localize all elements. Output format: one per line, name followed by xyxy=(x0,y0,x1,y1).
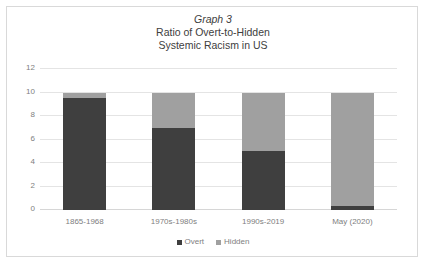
legend-label: Hidden xyxy=(224,238,249,246)
x-axis-tick-label: May (2020) xyxy=(332,217,372,226)
y-axis-tick-label: 6 xyxy=(31,135,35,143)
x-axis-tick-label: 1865-1968 xyxy=(65,217,103,226)
y-axis-tick-label: 4 xyxy=(31,158,35,166)
bar-segment-hidden[interactable] xyxy=(331,93,374,206)
bar-group[interactable]: 1990s-2019 xyxy=(242,69,285,210)
y-axis-tick-label: 12 xyxy=(26,64,35,72)
chart-title-line-2: Ratio of Overt-to-Hidden xyxy=(7,26,418,39)
chart-title-line-1: Graph 3 xyxy=(7,13,418,26)
bar-segment-hidden[interactable] xyxy=(242,93,285,152)
chart-title: Graph 3 Ratio of Overt-to-Hidden Systemi… xyxy=(7,13,418,52)
x-axis-tick-label: 1990s-2019 xyxy=(242,217,284,226)
chart-legend: OvertHidden xyxy=(7,238,418,246)
bar-segment-hidden[interactable] xyxy=(63,93,106,99)
chart-title-line-3: Systemic Racism in US xyxy=(7,39,418,52)
legend-swatch-icon xyxy=(216,240,221,245)
y-axis-tick-label: 8 xyxy=(31,111,35,119)
bar-group[interactable]: 1970s-1980s xyxy=(152,69,195,210)
chart-container: Graph 3 Ratio of Overt-to-Hidden Systemi… xyxy=(6,6,418,257)
legend-swatch-icon xyxy=(177,240,182,245)
bar-group[interactable]: 1865-1968 xyxy=(63,69,106,210)
bar-segment-overt[interactable] xyxy=(242,151,285,210)
x-axis-tick-label: 1970s-1980s xyxy=(151,217,197,226)
bar-segment-overt[interactable] xyxy=(331,206,374,210)
legend-item-hidden[interactable]: Hidden xyxy=(216,238,249,246)
legend-label: Overt xyxy=(185,238,205,246)
legend-item-overt[interactable]: Overt xyxy=(177,238,205,246)
y-axis-tick-label: 10 xyxy=(26,88,35,96)
y-axis-tick-label: 2 xyxy=(31,182,35,190)
bar-segment-hidden[interactable] xyxy=(152,93,195,128)
plot-area: 0246810121865-19681970s-1980s1990s-2019M… xyxy=(40,69,397,210)
bar-segment-overt[interactable] xyxy=(152,128,195,210)
y-axis-tick-label: 0 xyxy=(31,205,35,213)
bar-group[interactable]: May (2020) xyxy=(331,69,374,210)
bar-segment-overt[interactable] xyxy=(63,98,106,210)
